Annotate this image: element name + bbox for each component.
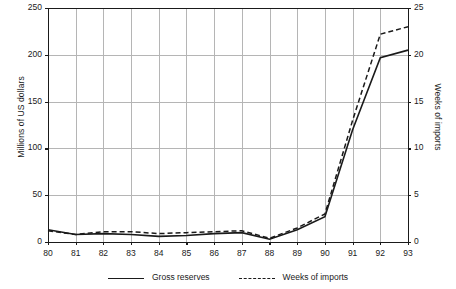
chart-figure: Millions of US dollars Weeks of imports … xyxy=(0,0,456,289)
legend-label: Weeks of imports xyxy=(283,272,349,282)
series-lines xyxy=(48,27,408,239)
legend-label: Gross reserves xyxy=(152,272,210,282)
series-line-2 xyxy=(48,27,408,239)
plot-frame xyxy=(45,9,411,246)
plot-area xyxy=(0,0,456,289)
chart-legend: Gross reservesWeeks of imports xyxy=(0,268,456,289)
legend-dashed-line-icon xyxy=(239,278,275,279)
legend-solid-line-icon xyxy=(108,278,144,279)
series-line-1 xyxy=(48,50,408,239)
